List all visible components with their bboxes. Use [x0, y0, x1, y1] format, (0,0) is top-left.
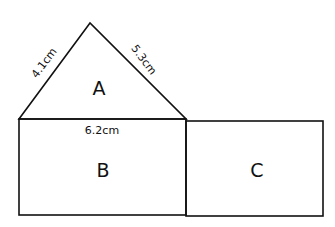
dimension-right-side: 5.3cm: [128, 42, 159, 77]
composite-shape-diagram: A B C 4.1cm 5.3cm 6.2cm: [0, 0, 335, 227]
label-b: B: [96, 159, 109, 181]
dimension-left-side: 4.1cm: [29, 45, 60, 80]
dimension-base: 6.2cm: [85, 124, 119, 137]
label-a: A: [93, 77, 106, 99]
label-c: C: [250, 159, 263, 181]
